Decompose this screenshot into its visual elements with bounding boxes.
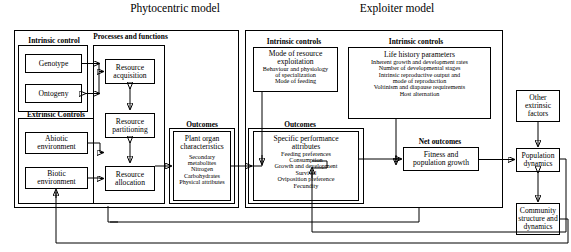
heading-outcomes-plant: Outcomes <box>170 121 234 128</box>
node-biotic-label: Bioticenvironment <box>37 170 75 186</box>
node-fitness-label: Fitness andpopulation growth <box>413 151 469 167</box>
node-fitness-population-growth[interactable]: Fitness andpopulation growth <box>403 147 479 171</box>
node-ontogeny-label: Ontogeny <box>39 90 69 98</box>
heading-processes-functions: Processes and functions <box>68 33 193 40</box>
node-resource-allocation-label: Resourceallocation <box>115 171 145 187</box>
node-life-history-lines: Inherent growth and development ratesNum… <box>371 59 468 97</box>
node-plant-organ-lines: SecondarymetabolitesNitrogenCarbohydrate… <box>179 154 225 186</box>
node-ontogeny[interactable]: Ontogeny <box>25 84 82 103</box>
node-mode-resource-title: Mode of resourceexploitation <box>269 50 323 66</box>
heading-outcomes-exploiter: Outcomes <box>255 121 345 128</box>
node-abiotic-label: Abioticenvironment <box>37 135 75 151</box>
diagram-canvas: Phytocentric model Exploiter model Intri… <box>0 0 571 252</box>
heading-net-outcomes: Net outcomes <box>400 138 480 145</box>
node-genotype-label: Genotype <box>39 60 69 68</box>
node-abiotic-environment[interactable]: Abioticenvironment <box>25 132 88 154</box>
heading-intrinsic-controls-mode: Intrinsic controls <box>252 38 336 45</box>
node-population-dynamics-label: Populationdynamics <box>522 152 555 168</box>
node-resource-acquisition[interactable]: Resourceacquisition <box>105 59 155 84</box>
node-specific-performance-attributes[interactable]: Specific performanceattributes Feeding p… <box>253 131 359 201</box>
node-community-label: Communitystructure anddynamics <box>518 207 557 230</box>
node-resource-allocation[interactable]: Resourceallocation <box>105 166 155 191</box>
node-biotic-environment[interactable]: Bioticenvironment <box>25 167 88 189</box>
node-mode-resource-lines: Behaviour and physiologyof specializatio… <box>263 66 328 85</box>
node-life-history-parameters[interactable]: Life history parameters Inherent growth … <box>348 47 491 119</box>
node-population-dynamics[interactable]: Populationdynamics <box>516 148 560 172</box>
node-other-extrinsic-label: Otherextrinsicfactors <box>525 94 551 117</box>
node-resource-acquisition-label: Resourceacquisition <box>113 64 146 80</box>
exploiter-model-title: Exploiter model <box>297 2 497 14</box>
extrinsic-controls-panel <box>18 118 94 204</box>
node-other-extrinsic-factors[interactable]: Otherextrinsicfactors <box>516 90 560 122</box>
node-plant-organ-characteristics[interactable]: Plant organcharacteristics Secondarymeta… <box>173 131 231 201</box>
node-specific-performance-title: Specific performanceattributes <box>273 135 338 151</box>
heading-extrinsic-controls: Extrinsic Controls <box>12 111 100 118</box>
node-plant-organ-title: Plant organcharacteristics <box>180 135 223 151</box>
node-mode-of-resource-exploitation[interactable]: Mode of resourceexploitation Behaviour a… <box>253 47 338 92</box>
node-resource-partitioning[interactable]: Resourcepartitioning <box>105 113 155 138</box>
node-community-structure-dynamics[interactable]: Communitystructure anddynamics <box>516 203 560 235</box>
node-genotype[interactable]: Genotype <box>25 54 82 73</box>
phytocentric-model-title: Phytocentric model <box>75 2 275 14</box>
heading-intrinsic-controls-life: Intrinsic controls <box>348 38 484 45</box>
node-specific-performance-lines: Feeding preferencesConsumptionGrowth and… <box>275 151 338 189</box>
node-resource-partitioning-label: Resourcepartitioning <box>112 118 147 134</box>
wire-exploiter-feedback-left <box>110 208 419 222</box>
